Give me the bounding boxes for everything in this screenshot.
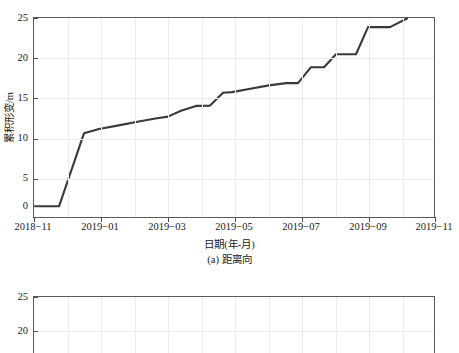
y-tick-label-0: 0 — [3, 201, 28, 212]
y-tick-mark — [34, 18, 38, 19]
gridline-v — [101, 18, 102, 217]
plot-area-a — [33, 17, 435, 218]
gridline-v — [68, 297, 69, 353]
gridline-v — [135, 18, 136, 217]
gridline-h — [34, 139, 434, 140]
gridline-v — [235, 18, 236, 217]
y-tick-label-b-25: 25 — [3, 292, 28, 303]
chart-panel-b: 25 20 — [0, 265, 459, 353]
y-tick-label-10: 10 — [3, 133, 28, 144]
y-tick-mark — [34, 297, 38, 298]
gridline-v — [168, 297, 169, 353]
y-tick-label-15: 15 — [3, 93, 28, 104]
gridline-v — [369, 18, 370, 217]
gridline-v — [336, 18, 337, 217]
gridline-v — [403, 297, 404, 353]
y-tick-label-5: 5 — [3, 173, 28, 184]
gridline-v — [336, 297, 337, 353]
x-tick-label-2019-01: 2019−01 — [65, 221, 135, 232]
x-tick-label-2018-11: 2018−11 — [0, 221, 68, 232]
gridline-v — [403, 18, 404, 217]
gridline-v — [202, 18, 203, 217]
x-tick-label-2019-09: 2019−09 — [333, 221, 403, 232]
y-tick-label-20: 20 — [3, 53, 28, 64]
chart-panel-a: 累积形变/m 25 20 15 10 5 0 — [0, 0, 459, 270]
x-tick-label-2019-03: 2019−03 — [132, 221, 202, 232]
plot-area-b — [33, 296, 435, 353]
panel-caption-a: (a) 距离向 — [0, 251, 459, 266]
x-tick-label-2019-11: 2019−11 — [399, 221, 459, 232]
gridline-v — [135, 297, 136, 353]
gridline-v — [235, 297, 236, 353]
gridline-v — [202, 297, 203, 353]
y-tick-mark — [34, 98, 38, 99]
gridline-v — [168, 18, 169, 217]
y-tick-mark — [34, 139, 38, 140]
y-tick-mark — [34, 179, 38, 180]
y-tick-mark — [34, 206, 38, 207]
x-tick-label-2019-07: 2019−07 — [266, 221, 336, 232]
gridline-v — [302, 18, 303, 217]
gridline-v — [302, 297, 303, 353]
gridline-v — [68, 18, 69, 217]
y-tick-mark — [34, 331, 38, 332]
y-tick-label-25: 25 — [3, 13, 28, 24]
gridline-h — [34, 58, 434, 59]
gridline-v — [269, 18, 270, 217]
y-tick-label-b-20: 20 — [3, 326, 28, 337]
gridline-h — [34, 331, 434, 332]
gridline-h — [34, 179, 434, 180]
gridline-v — [269, 297, 270, 353]
gridline-v — [101, 297, 102, 353]
x-axis-title-a: 日期(年-月) — [0, 236, 459, 251]
gridline-h — [34, 98, 434, 99]
gridline-v — [369, 297, 370, 353]
x-tick-label-2019-05: 2019−05 — [199, 221, 269, 232]
y-tick-mark — [34, 58, 38, 59]
figure-container: 累积形变/m 25 20 15 10 5 0 — [0, 0, 459, 353]
